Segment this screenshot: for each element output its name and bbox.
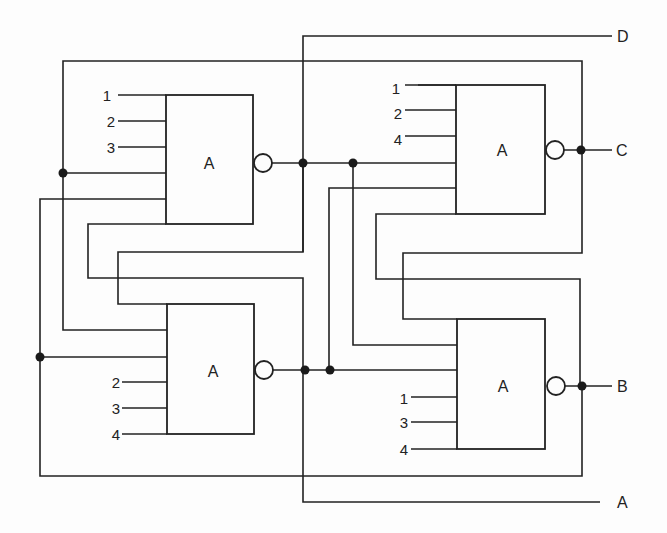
output-label-d: D xyxy=(617,28,629,45)
gate-label: A xyxy=(497,142,508,159)
junction-dot-icon xyxy=(301,366,310,375)
input-label: 4 xyxy=(400,441,408,458)
input-label: 2 xyxy=(107,113,115,130)
junction-dot-icon xyxy=(59,169,68,178)
output-label-c: C xyxy=(616,142,628,159)
input-label: 1 xyxy=(103,87,111,104)
wire-353 xyxy=(353,163,457,345)
gate-top-left: A xyxy=(166,95,272,224)
input-label: 3 xyxy=(400,414,408,431)
inverter-bubble-icon xyxy=(254,154,272,172)
junction-dot-icon xyxy=(578,382,587,391)
input-label: 2 xyxy=(394,105,402,122)
input-label: 1 xyxy=(400,390,408,407)
input-label: 3 xyxy=(112,400,120,417)
junction-dot-icon xyxy=(577,146,586,155)
junction-dot-icon xyxy=(349,159,358,168)
input-label: 1 xyxy=(392,80,400,97)
input-label: 2 xyxy=(112,374,120,391)
gate-bottom-left: A xyxy=(167,304,273,434)
input-labels: 1 2 3 1 2 4 2 3 4 1 3 4 xyxy=(103,80,408,458)
gate-top-right: A xyxy=(456,85,564,214)
inverter-bubble-icon xyxy=(547,377,565,395)
inverter-bubble-icon xyxy=(546,141,564,159)
junction-dot-icon xyxy=(36,353,45,362)
input-label: 4 xyxy=(394,131,402,148)
logic-circuit-diagram: A A A A 1 2 3 1 2 4 2 3 4 1 xyxy=(0,0,667,533)
gate-bottom-right: A xyxy=(457,319,565,449)
junction-dot-icon xyxy=(299,159,308,168)
output-labels: D C B A xyxy=(616,28,629,511)
input-label: 4 xyxy=(112,426,120,443)
inverter-bubble-icon xyxy=(255,361,273,379)
output-label-a: A xyxy=(617,494,628,511)
gate-label: A xyxy=(498,378,509,395)
gate-label: A xyxy=(204,155,215,172)
input-label: 3 xyxy=(107,139,115,156)
gate-label: A xyxy=(208,363,219,380)
junction-dot-icon xyxy=(326,366,335,375)
output-label-b: B xyxy=(617,378,628,395)
